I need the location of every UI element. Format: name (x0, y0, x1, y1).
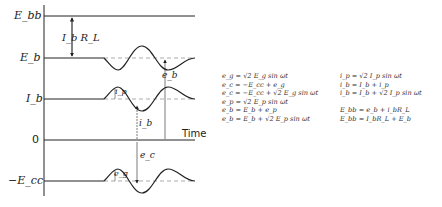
equation-ib-full: i_b = I_b + √2 I_p sin ωt (340, 89, 422, 98)
equation-row: e_b = E_b + e_pE_bb = e_b + i_bR_L (222, 106, 422, 115)
ib-annotation: i_b (139, 118, 152, 128)
equation-eb-full: e_b = E_b + √2 E_p sin ωt (222, 115, 340, 124)
eg-annotation: e_g (114, 169, 128, 178)
equation-ec-full: e_c = −E_cc + √2 E_g sin ωt (222, 89, 340, 98)
equation-ep: e_p = √2 E_p sin ωt (222, 98, 340, 107)
equation-ib: i_b = I_b + i_p (340, 81, 389, 90)
equation-eb: e_b = E_b + e_p (222, 106, 340, 115)
equation-ec: e_c = −E_cc + e_g (222, 81, 340, 90)
ib-label: I_b (26, 92, 43, 105)
equation-row: e_g = √2 E_g sin ωti_p = √2 I_p sin ωt (222, 72, 422, 81)
ebb-label: E_bb (14, 9, 42, 22)
equation-row: e_c = −E_cc + √2 E_g sin ωti_b = I_b + √… (222, 89, 422, 98)
time-label: Time (182, 128, 206, 139)
ip-annotation: i_p (115, 87, 127, 96)
equation-row: e_p = √2 E_p sin ωt (222, 98, 422, 107)
eb-annotation: e_b (162, 70, 178, 80)
equations-block: e_g = √2 E_g sin ωti_p = √2 I_p sin ωt e… (222, 72, 422, 124)
ibrl-label: I_b R_L (62, 32, 100, 43)
zero-label: 0 (32, 133, 39, 146)
ec-annotation: e_c (140, 150, 155, 160)
equation-eg: e_g = √2 E_g sin ωt (222, 72, 340, 81)
equation-ebb: E_bb = e_b + i_bR_L (340, 106, 410, 115)
eb-label: E_b (20, 51, 41, 64)
equation-ip: i_p = √2 I_p sin ωt (340, 72, 402, 81)
equation-row: e_c = −E_cc + e_gi_b = I_b + i_p (222, 81, 422, 90)
equation-ebb-full: E_bb = I_bR_L + E_b (340, 115, 411, 124)
equation-row: e_b = E_b + √2 E_p sin ωtE_bb = I_bR_L +… (222, 115, 422, 124)
ecc-label: −E_cc (8, 174, 43, 187)
